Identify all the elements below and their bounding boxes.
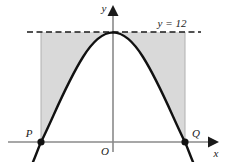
shaded-region-left [41, 32, 113, 142]
coordinate-plane-figure: P Q O y x y = 12 [0, 0, 225, 162]
x-axis-label: x [213, 147, 219, 159]
y-axis-arrowhead [108, 5, 119, 16]
axes-group [8, 5, 219, 152]
point-q-dot [181, 138, 188, 145]
point-p-label: P [25, 127, 33, 139]
line-equation-label: y = 12 [157, 17, 187, 29]
point-p-dot [37, 138, 44, 145]
shaded-region-right [113, 32, 185, 142]
x-axis-arrowhead [208, 137, 219, 148]
origin-label: O [101, 145, 109, 157]
point-q-label: Q [192, 127, 200, 139]
y-axis-label: y [101, 2, 107, 14]
figure-container: P Q O y x y = 12 [0, 0, 225, 162]
